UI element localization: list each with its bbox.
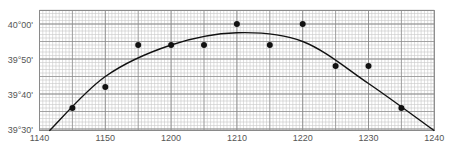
x-axis-labels: 1140 1150 1200 1210 1220 1230 1240 xyxy=(30,133,444,143)
data-point xyxy=(398,105,404,111)
x-tick-label: 1200 xyxy=(161,133,181,143)
x-tick-label: 1150 xyxy=(96,133,115,143)
data-point xyxy=(234,21,240,27)
chart: 40°00' 39°50' 39°40' 39°30' 1140 1150 12… xyxy=(0,0,464,146)
data-point xyxy=(201,42,207,48)
data-point xyxy=(333,63,339,69)
data-point xyxy=(135,42,141,48)
x-tick-label: 1220 xyxy=(293,133,313,143)
y-tick-label: 39°50' xyxy=(8,55,34,65)
y-tick-label: 39°40' xyxy=(8,90,34,100)
x-tick-label: 1210 xyxy=(227,133,247,143)
x-tick-label: 1140 xyxy=(30,133,49,143)
x-tick-label: 1230 xyxy=(358,133,378,143)
data-point xyxy=(267,42,273,48)
y-axis-labels: 40°00' 39°50' 39°40' 39°30' xyxy=(8,20,34,135)
data-point xyxy=(69,105,75,111)
data-point xyxy=(366,63,372,69)
fitted-curve xyxy=(49,33,434,131)
data-point xyxy=(300,21,306,27)
data-point xyxy=(102,84,108,90)
x-tick-label: 1240 xyxy=(424,133,444,143)
y-tick-label: 40°00' xyxy=(8,20,34,30)
data-point xyxy=(168,42,174,48)
